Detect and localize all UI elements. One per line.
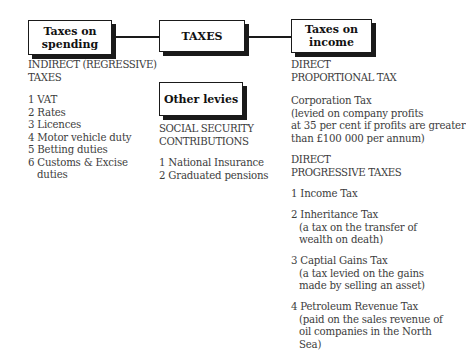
list-item: 2 Graduated pensions xyxy=(159,170,268,183)
list-item: 3 Captial Gains Tax xyxy=(291,255,388,268)
corporation-tax-note: (levied on company profits xyxy=(291,108,423,121)
list-item-note: (a tax levied on the gains xyxy=(291,268,424,281)
list-item-continuation: duties xyxy=(37,169,68,182)
box-label-line1: Taxes on xyxy=(305,23,358,36)
list-item-note: Sea) xyxy=(291,339,321,352)
section-heading: INDIRECT (REGRESSIVE) xyxy=(28,59,157,72)
section-heading: CONTRIBUTIONS xyxy=(159,136,249,149)
box-other-levies: Other levies xyxy=(159,82,243,116)
list-item: 2 Rates xyxy=(28,107,66,120)
box-label-line1: Taxes on xyxy=(42,25,98,38)
list-item-note: made by selling an asset) xyxy=(291,280,425,293)
box-label: TAXES xyxy=(182,30,223,43)
section-heading: DIRECT xyxy=(291,59,331,72)
list-item: 6 Customs & Excise xyxy=(28,157,128,170)
list-item-note: wealth on death) xyxy=(291,234,383,247)
connector-spending-taxes xyxy=(114,36,160,38)
box-taxes-on-spending: Taxes on spending xyxy=(28,20,112,55)
box-taxes-on-income: Taxes on income xyxy=(291,19,372,53)
connector-taxes-income xyxy=(247,36,292,38)
list-item-note: (a tax on the transfer of xyxy=(291,222,417,235)
box-taxes: TAXES xyxy=(159,20,245,52)
list-item: 4 Petroleum Revenue Tax xyxy=(291,301,418,314)
corporation-tax-note: at 35 per cent if profits are greater xyxy=(291,120,466,133)
box-label-line2: income xyxy=(305,36,358,49)
section-heading: PROGRESSIVE TAXES xyxy=(291,167,401,180)
list-item: 4 Motor vehicle duty xyxy=(28,132,131,145)
section-heading: SOCIAL SECURITY xyxy=(159,123,254,136)
section-heading: PROPORTIONAL TAX xyxy=(291,72,396,85)
list-item-note: oil companies in the North xyxy=(291,326,432,339)
section-heading: TAXES xyxy=(28,72,61,85)
list-item-note: (paid on the sales revenue of xyxy=(291,314,443,327)
list-item: 5 Betting duties xyxy=(28,144,108,157)
list-item: 1 Income Tax xyxy=(291,188,358,201)
corporation-tax: Corporation Tax xyxy=(291,95,372,108)
list-item: 1 National Insurance xyxy=(159,157,264,170)
list-item: 3 Licences xyxy=(28,119,81,132)
box-label-line2: spending xyxy=(42,38,98,51)
box-label: Other levies xyxy=(164,93,238,106)
list-item: 1 VAT xyxy=(28,94,57,107)
corporation-tax-note: than £100 000 per annum) xyxy=(291,133,425,146)
section-heading: DIRECT xyxy=(291,154,331,167)
list-item: 2 Inheritance Tax xyxy=(291,209,378,222)
